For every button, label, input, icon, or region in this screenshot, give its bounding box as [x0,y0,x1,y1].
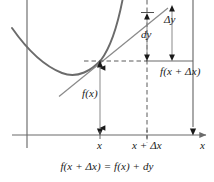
dy-arrowhead-top [144,13,150,20]
dy-arrowhead-bottom [144,55,150,62]
delta-y-arrowhead-bottom [169,55,175,62]
fx-plus-delta-x-label: f(x + Δx) [160,66,200,77]
delta-y-arrowhead-top [169,5,175,12]
x-plus-delta-x-tick-label: x + Δx [132,140,162,151]
x-tick-label: x [97,140,102,151]
tangent-line [59,8,168,97]
fx-label: f(x) [82,88,98,99]
function-curve [12,0,123,75]
figure-canvas [0,0,214,182]
differential-figure: f(x) dy Δy f(x + Δx) x x + Δx x f(x + Δx… [0,0,214,182]
x-axis-label: x [200,140,205,151]
delta-y-label: Δy [164,14,176,25]
figure-caption: f(x + Δx) = f(x) + dy [0,161,214,172]
dy-label: dy [141,29,152,40]
